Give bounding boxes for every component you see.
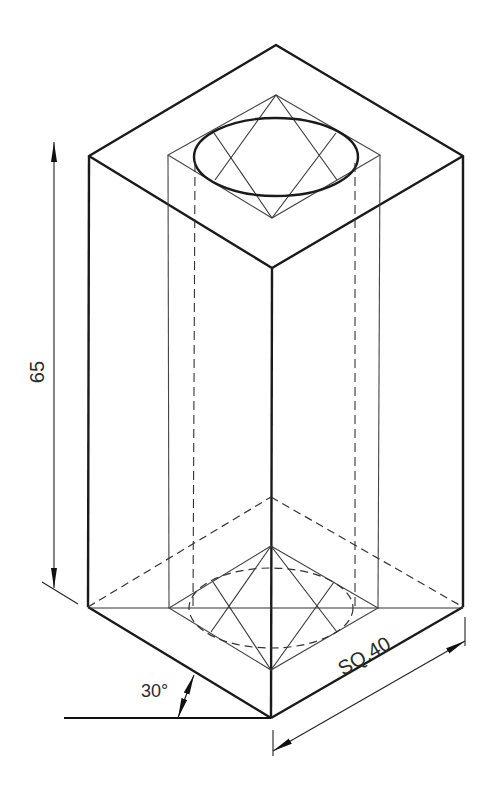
inner-square-prism: [168, 95, 380, 670]
block-outline: [88, 45, 463, 718]
side-dimension: [273, 617, 465, 756]
top-hole-ellipse: [194, 118, 358, 196]
drawing-svg: 65 30° SQ.40: [0, 0, 493, 793]
isometric-drawing: 65 30° SQ.40: [0, 0, 493, 793]
height-label: 65: [26, 361, 48, 383]
angle-label: 30°: [141, 681, 168, 701]
side-label: SQ.40: [334, 632, 394, 679]
top-ellipse-construction: [214, 95, 337, 218]
hidden-cylinder-walls: [193, 163, 355, 608]
